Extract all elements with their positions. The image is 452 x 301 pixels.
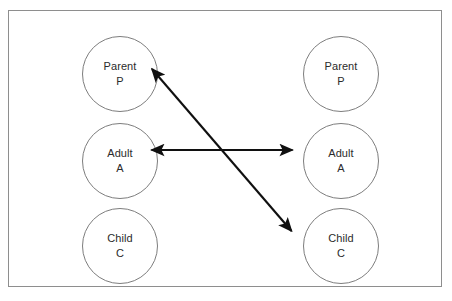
ego-state-label-name: Adult	[107, 147, 133, 160]
ego-state-left-parent[interactable]: Parent P	[82, 36, 158, 112]
ego-state-label-name: Parent	[324, 60, 357, 73]
ego-state-label-code: C	[116, 247, 124, 260]
ego-state-label-name: Parent	[103, 60, 136, 73]
ego-state-right-adult[interactable]: Adult A	[303, 123, 379, 199]
ego-state-label-name: Child	[107, 232, 133, 245]
diagram-root: Parent P Adult A Child C Parent P Adult …	[0, 0, 452, 301]
ego-state-label-name: Adult	[328, 147, 354, 160]
ego-state-left-adult[interactable]: Adult A	[82, 123, 158, 199]
ego-state-label-code: A	[337, 162, 344, 175]
diagram-frame: Parent P Adult A Child C Parent P Adult …	[8, 10, 442, 287]
ego-state-label-code: P	[337, 75, 344, 88]
ego-state-label-name: Child	[328, 232, 354, 245]
ego-state-right-parent[interactable]: Parent P	[303, 36, 379, 112]
ego-state-right-child[interactable]: Child C	[303, 208, 379, 284]
ego-state-label-code: C	[337, 247, 345, 260]
ego-state-label-code: P	[116, 75, 123, 88]
ego-state-label-code: A	[116, 162, 123, 175]
ego-state-left-child[interactable]: Child C	[82, 208, 158, 284]
